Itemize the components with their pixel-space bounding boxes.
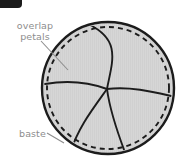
- baste-label: baste: [19, 129, 46, 140]
- sewing-pattern-figure: overlap petals baste: [0, 0, 185, 167]
- overlap-petals-label: overlap petals: [13, 21, 57, 42]
